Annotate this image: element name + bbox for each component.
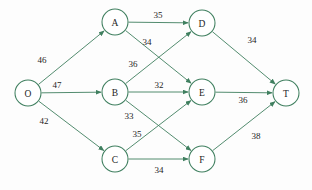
node-f[interactable]: F bbox=[189, 146, 215, 172]
edge-a-to-d bbox=[129, 22, 189, 23]
edge-f-to-t bbox=[213, 102, 275, 151]
edge-o-to-b bbox=[42, 92, 102, 93]
edge-weight-label-b-d: 36 bbox=[129, 59, 139, 69]
node-a[interactable]: A bbox=[102, 9, 128, 35]
edge-weight-label-e-t: 36 bbox=[239, 95, 249, 105]
edge-weight-label-o-a: 46 bbox=[38, 55, 48, 65]
edge-weight-label-b-f: 33 bbox=[125, 111, 135, 121]
node-label-a: A bbox=[112, 18, 119, 28]
edge-weight-label-a-d: 35 bbox=[154, 10, 164, 20]
node-label-c: C bbox=[112, 155, 118, 165]
node-o[interactable]: O bbox=[15, 80, 41, 106]
network-diagram-svg: OABCDEFT 46474235343632333534343638 bbox=[0, 0, 312, 190]
edge-weight-label-d-t: 34 bbox=[248, 35, 258, 45]
edge-weight-label-f-t: 38 bbox=[252, 131, 262, 141]
node-label-f: F bbox=[199, 155, 204, 165]
edge-weight-label-o-c: 42 bbox=[40, 116, 49, 126]
edge-d-to-t bbox=[212, 32, 275, 84]
edge-weight-label-c-e: 35 bbox=[133, 129, 143, 139]
network-diagram-canvas: OABCDEFT 46474235343632333534343638 bbox=[0, 0, 312, 190]
node-d[interactable]: D bbox=[189, 10, 215, 36]
node-label-e: E bbox=[199, 88, 205, 98]
node-t[interactable]: T bbox=[273, 80, 299, 106]
edges-layer bbox=[38, 22, 275, 159]
edge-weight-label-a-e: 34 bbox=[143, 37, 153, 47]
edge-e-to-t bbox=[216, 92, 273, 93]
node-e[interactable]: E bbox=[189, 79, 215, 105]
node-b[interactable]: B bbox=[102, 79, 128, 105]
node-c[interactable]: C bbox=[102, 146, 128, 172]
edge-o-to-c bbox=[39, 101, 104, 150]
edge-weight-label-b-e: 32 bbox=[155, 80, 164, 90]
node-label-t: T bbox=[283, 89, 289, 99]
node-label-b: B bbox=[112, 88, 118, 98]
edge-weight-label-o-b: 47 bbox=[53, 80, 63, 90]
node-label-d: D bbox=[199, 19, 206, 29]
node-label-o: O bbox=[25, 89, 32, 99]
edge-o-to-a bbox=[38, 31, 104, 85]
edge-weight-label-c-f: 34 bbox=[155, 165, 165, 175]
nodes-layer: OABCDEFT bbox=[15, 9, 299, 172]
